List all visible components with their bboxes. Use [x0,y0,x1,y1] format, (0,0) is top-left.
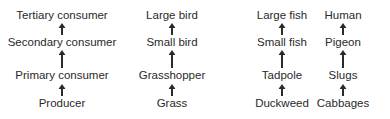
food-chain-grassland: GrassGrasshopperSmall birdLarge bird [112,0,232,119]
trophic-level-label: Cabbages [317,97,369,110]
trophic-level-label: Producer [39,97,86,110]
arrow-up-icon [340,84,347,96]
food-chain-garden: CabbagesSlugsPigeonHuman [283,0,390,119]
food-chain-generic: ProducerPrimary consumerSecondary consum… [2,0,122,119]
arrow-up-icon [169,50,176,68]
trophic-level-label: Grass [157,97,188,110]
arrow-up-icon [169,23,176,35]
trophic-level-label: Pigeon [325,36,361,49]
arrow-up-icon [59,23,66,35]
arrow-up-icon [340,23,347,35]
trophic-level-label: Grasshopper [139,69,205,82]
arrow-up-icon [169,84,176,96]
trophic-level-label: Primary consumer [15,69,108,82]
trophic-level-label: Small bird [146,36,197,49]
arrow-up-icon [59,50,66,68]
trophic-level-label: Secondary consumer [8,36,117,49]
arrow-up-icon [59,84,66,96]
trophic-level-label: Slugs [329,69,358,82]
arrow-up-icon [340,50,347,68]
trophic-level-label: Human [324,9,361,22]
trophic-level-label: Large bird [146,9,198,22]
trophic-level-label: Tertiary consumer [16,9,107,22]
